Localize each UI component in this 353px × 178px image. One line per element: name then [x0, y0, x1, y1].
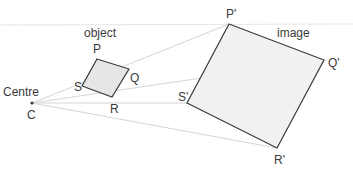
centre-label: Centre [3, 85, 39, 99]
top-border-line [0, 24, 353, 25]
c-label: C [27, 108, 36, 122]
image-label: image [277, 26, 310, 40]
centre-point [30, 101, 33, 104]
vertex-r-prime-label: R' [274, 153, 285, 167]
vertex-q-prime-label: Q' [328, 56, 340, 70]
enlargement-diagram: Centre C object image P Q R S P' Q' R' S… [0, 0, 353, 178]
vertex-p-label: P [93, 42, 101, 56]
object-label: object [84, 26, 117, 40]
vertex-p-prime-label: P' [226, 7, 236, 21]
image-quadrilateral [187, 24, 324, 148]
vertex-r-label: R [110, 102, 119, 116]
vertex-q-label: Q [130, 71, 139, 85]
object-quadrilateral [82, 59, 129, 97]
vertex-s-label: S [74, 80, 82, 94]
vertex-s-prime-label: S' [178, 90, 188, 104]
